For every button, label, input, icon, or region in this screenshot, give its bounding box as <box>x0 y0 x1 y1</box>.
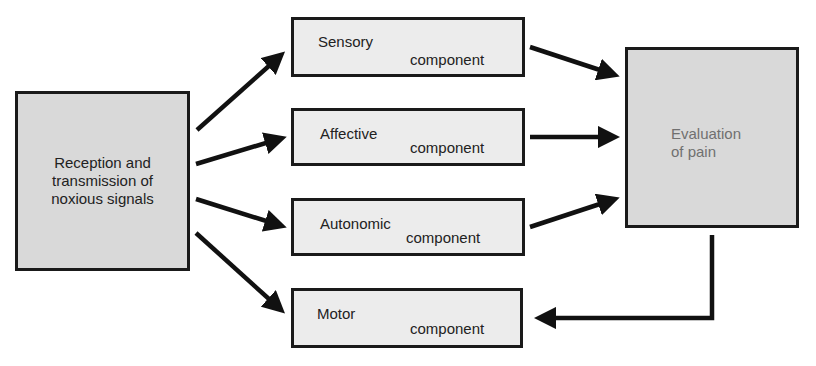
arrow-evaluation-to-motor <box>542 235 712 318</box>
arrow-source-to-motor <box>196 233 279 308</box>
sensory-component-label: component <box>410 51 484 69</box>
motor-label: Motor <box>317 305 355 323</box>
affective-label: Affective <box>320 125 377 143</box>
arrow-source-to-autonomic <box>196 199 279 225</box>
arrow-source-to-sensory <box>197 57 279 130</box>
sensory-label: Sensory <box>318 33 373 51</box>
motor-component-label: component <box>410 320 484 338</box>
affective-component-box: Affective component <box>291 108 525 166</box>
evaluation-of-pain-box: Evaluation of pain <box>625 47 799 228</box>
autonomic-label: Autonomic <box>320 215 391 233</box>
affective-component-label: component <box>410 139 484 157</box>
arrow-sensory-to-evaluation <box>530 47 612 74</box>
reception-transmission-label: Reception and transmission of noxious si… <box>18 154 187 208</box>
sensory-component-box: Sensory component <box>291 17 525 77</box>
motor-component-box: Motor component <box>291 288 523 348</box>
autonomic-component-label: component <box>406 229 480 247</box>
reception-transmission-box: Reception and transmission of noxious si… <box>15 91 190 271</box>
arrow-source-to-affective <box>196 139 279 164</box>
autonomic-component-box: Autonomic component <box>291 198 525 256</box>
arrow-autonomic-to-evaluation <box>530 200 612 227</box>
evaluation-of-pain-label: Evaluation of pain <box>671 125 741 161</box>
